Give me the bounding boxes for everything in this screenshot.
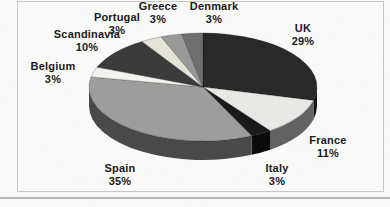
- slice-label-percent: 3%: [190, 13, 238, 26]
- slice-label-name: Denmark: [190, 0, 238, 13]
- slice-label-italy: Italy3%: [265, 162, 288, 187]
- slice-label-percent: 3%: [139, 13, 178, 26]
- slice-label-name: Greece: [139, 0, 178, 13]
- slice-labels: UK29%France11%Italy3%Spain35%Belgium3%Sc…: [0, 0, 390, 207]
- slice-label-name: UK: [292, 22, 315, 35]
- slice-label-name: Italy: [265, 162, 288, 175]
- slice-label-percent: 10%: [54, 41, 120, 54]
- slice-label-spain: Spain35%: [105, 162, 136, 187]
- bottom-rule: [0, 197, 390, 199]
- slice-label-greece: Greece3%: [139, 0, 178, 25]
- slice-label-percent: 29%: [292, 35, 315, 48]
- slice-label-belgium: Belgium3%: [31, 60, 76, 85]
- slice-label-name: France: [309, 134, 346, 147]
- slice-label-percent: 11%: [309, 147, 346, 160]
- slice-label-percent: 3%: [265, 175, 288, 188]
- slice-label-name: Belgium: [31, 60, 76, 73]
- slice-label-percent: 3%: [31, 73, 76, 86]
- slice-label-france: France11%: [309, 134, 346, 159]
- slice-label-denmark: Denmark3%: [190, 0, 238, 25]
- slice-label-percent: 3%: [94, 24, 140, 37]
- pie-chart-figure: UK29%France11%Italy3%Spain35%Belgium3%Sc…: [0, 0, 390, 207]
- slice-label-name: Spain: [105, 162, 136, 175]
- slice-label-uk: UK29%: [292, 22, 315, 47]
- slice-label-portugal: Portugal3%: [94, 11, 140, 36]
- slice-label-percent: 35%: [105, 175, 136, 188]
- slice-label-name: Portugal: [94, 11, 140, 24]
